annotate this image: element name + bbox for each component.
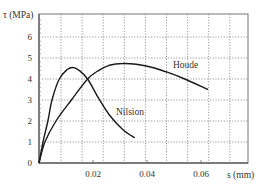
nilsion-label: Nilsion bbox=[116, 107, 144, 117]
x-tick-label: 0.02 bbox=[85, 169, 101, 179]
y-tick-label: 4 bbox=[28, 74, 33, 84]
y-tick-label: 6 bbox=[28, 32, 33, 42]
bond-slip-chart: 0123456 0.020.040.06 τ (MPa) s (mm) Houd… bbox=[0, 0, 267, 188]
plot-frame bbox=[39, 14, 248, 163]
x-tick-label: 0.04 bbox=[139, 169, 155, 179]
y-axis-label: τ (MPa) bbox=[3, 10, 33, 21]
y-tick-label: 1 bbox=[28, 137, 33, 147]
y-tick-label: 2 bbox=[28, 116, 33, 126]
x-tick-label: 0.06 bbox=[193, 169, 209, 179]
gridlines bbox=[39, 14, 248, 163]
y-tick-label: 0 bbox=[28, 158, 33, 168]
y-tick-label: 3 bbox=[28, 95, 33, 105]
houde-label: Houde bbox=[173, 60, 198, 70]
y-tick-label: 5 bbox=[28, 53, 33, 63]
x-axis-label: s (mm) bbox=[227, 170, 254, 181]
